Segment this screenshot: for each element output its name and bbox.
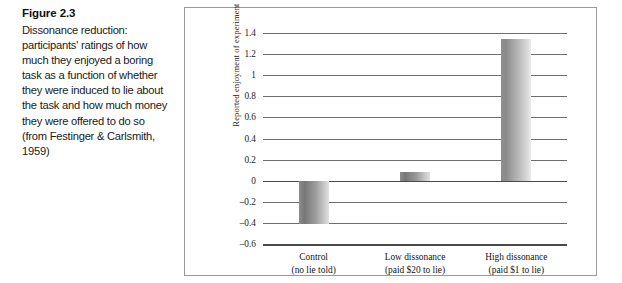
x-axis-label-0: Control(no lie told) [263, 251, 364, 277]
bar-control [299, 181, 329, 224]
x-axis-label-sub: (paid $20 to lie) [364, 264, 465, 277]
y-axis-tick-label: –0.6 [240, 239, 256, 249]
plot-area: 1.41.210.80.60.40.20–0.2–0.4–0.6 [263, 33, 567, 244]
figure-panel: Figure 2.3 Dissonance reduction: partici… [0, 0, 622, 283]
y-axis-tick-label: 0.4 [244, 134, 256, 144]
x-axis-label-sub: (paid $1 to lie) [466, 264, 567, 277]
y-axis-title: Reported enjoyment of experiment [231, 0, 245, 130]
x-axis-label-main: Low dissonance [385, 252, 446, 262]
x-axis-label-1: Low dissonance(paid $20 to lie) [364, 251, 465, 277]
x-axis-label-sub: (no lie told) [263, 264, 364, 277]
y-axis-tick-label: 0.8 [244, 91, 256, 101]
x-axis-category-labels: Control(no lie told)Low dissonance(paid … [263, 251, 567, 277]
y-axis-tick-label: 1.2 [244, 49, 256, 59]
y-axis-tick-label: 1.4 [244, 28, 256, 38]
figure-number-label: Figure 2.3 [22, 6, 172, 20]
y-axis-tick-label: –0.2 [240, 197, 256, 207]
y-axis-tick-label: 0.2 [244, 155, 256, 165]
y-axis-tick-label: 0 [251, 176, 256, 186]
x-axis-label-main: Control [299, 252, 328, 262]
figure-caption-text: Dissonance reduction: participants' rati… [22, 23, 172, 159]
y-axis-tick-label: 1 [251, 70, 256, 80]
figure-caption-block: Figure 2.3 Dissonance reduction: partici… [22, 6, 172, 159]
y-axis-tick-label: 0.6 [244, 112, 256, 122]
y-axis-tick-label: –0.4 [240, 218, 256, 228]
bar-low-dissonance [400, 172, 430, 180]
gridline: 1.4 [263, 33, 567, 34]
x-axis-label-main: High dissonance [485, 252, 547, 262]
gridline: –0.6 [263, 244, 567, 246]
chart-frame: Reported enjoyment of experiment 1.41.21… [184, 7, 597, 276]
bar-high-dissonance [501, 39, 531, 180]
x-axis-label-2: High dissonance(paid $1 to lie) [466, 251, 567, 277]
